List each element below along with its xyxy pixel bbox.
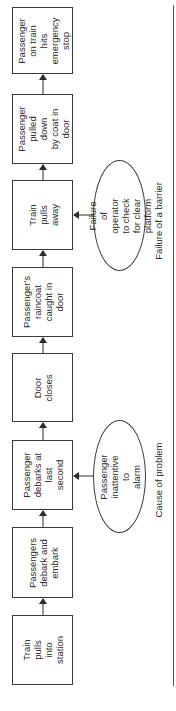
legend-cause-label: Cause of problem (153, 443, 164, 518)
step-label: Train pulls into station (21, 635, 65, 665)
step-box-passenger-hits-emergency-stop: Passenger on train hits emergency stop (12, 7, 73, 74)
step-label: Passenger pulled down by coat in door (15, 106, 70, 151)
factor-ellipse-cause: Passenger inattentive to alarm (93, 420, 146, 533)
divider-line (173, 5, 174, 686)
factor-label: Passenger inattentive to alarm (98, 454, 142, 499)
step-label: Passenger on train hits emergency stop (15, 17, 70, 64)
step-label: Door closes (32, 374, 54, 401)
step-box-passenger-debarks-last-second: Passenger debarks at last second (12, 440, 73, 510)
legend-barrier-label: Failure of a barrier (153, 182, 164, 260)
step-box-train-pulls-into-station: Train pulls into station (12, 615, 73, 685)
step-label: Train pulls away (26, 200, 59, 230)
factor-label: Failure of operator to check for clear p… (87, 198, 153, 233)
step-box-door-closes: Door closes (12, 353, 73, 422)
step-label: Passengers debark and embark (26, 537, 59, 587)
step-box-raincoat-caught: Passenger's raincoat caught in door (12, 267, 73, 337)
step-box-passengers-debark-embark: Passengers debark and embark (12, 527, 73, 598)
step-box-train-pulls-away: Train pulls away (12, 180, 73, 250)
step-label: Passenger debarks at last second (21, 452, 65, 497)
incident-flow-diagram: Passenger on train hits emergency stop P… (0, 0, 176, 711)
step-label: Passenger's raincoat caught in door (21, 276, 65, 328)
step-box-passenger-pulled-down: Passenger pulled down by coat in door (12, 94, 73, 164)
factor-ellipse-barrier-failure: Failure of operator to check for clear p… (93, 160, 146, 271)
